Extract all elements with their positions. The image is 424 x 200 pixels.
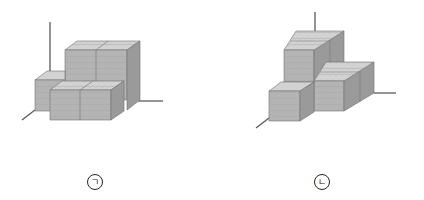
diagram-canvas xyxy=(0,0,424,200)
figure-b xyxy=(256,12,396,128)
cube-group-front xyxy=(50,81,124,120)
figure-b-label: ㄴ xyxy=(312,170,332,190)
axis-diagonal xyxy=(22,110,35,120)
cube-front-left xyxy=(269,82,314,121)
figure-a-label: ㄱ xyxy=(85,170,105,190)
figure-a xyxy=(22,22,163,120)
cube-right-row xyxy=(314,62,374,111)
axis-diagonal xyxy=(256,118,269,128)
